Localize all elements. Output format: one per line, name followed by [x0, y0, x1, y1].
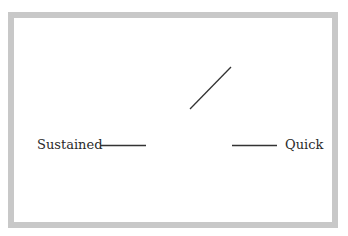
- switch-diagram: [0, 0, 348, 236]
- switch-lever-line: [190, 67, 231, 109]
